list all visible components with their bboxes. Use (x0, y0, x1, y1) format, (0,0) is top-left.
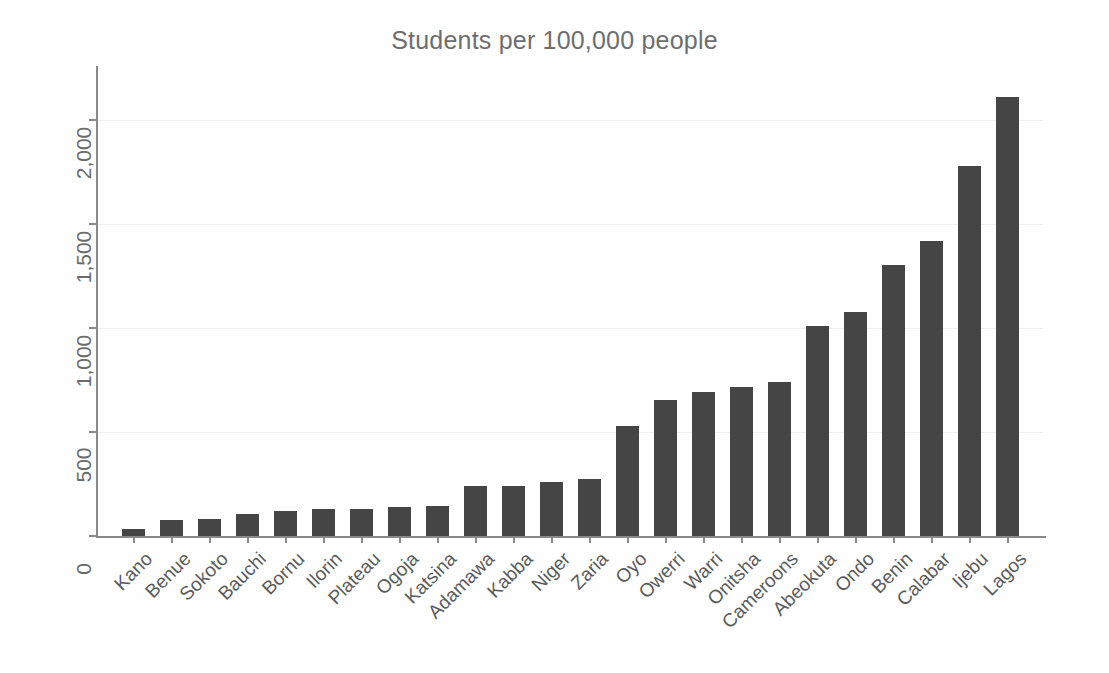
bar (464, 486, 487, 536)
x-tick-mark (323, 536, 325, 543)
y-axis-line (96, 66, 98, 538)
bar (578, 479, 601, 536)
x-tick-mark (171, 536, 173, 543)
bar (692, 392, 715, 536)
x-tick-mark (931, 536, 933, 543)
gridline (98, 120, 1043, 121)
x-tick-mark (703, 536, 705, 543)
bar (198, 519, 221, 536)
bar (920, 241, 943, 536)
bar (768, 382, 791, 536)
y-tick-label: 2,000 (72, 120, 96, 186)
x-tick-mark (209, 536, 211, 543)
x-tick-label: Ondo (831, 548, 879, 596)
bar (882, 265, 905, 536)
x-tick-mark (627, 536, 629, 543)
x-tick-mark (285, 536, 287, 543)
bar (160, 520, 183, 536)
x-tick-mark (893, 536, 895, 543)
bar (274, 511, 297, 536)
bar (236, 514, 259, 536)
y-tick-label: 500 (72, 432, 96, 498)
y-tick-label: 0 (72, 536, 96, 602)
x-tick-mark (589, 536, 591, 543)
x-tick-mark (133, 536, 135, 543)
chart-title: Students per 100,000 people (0, 26, 1109, 55)
bar (502, 486, 525, 536)
bar (806, 326, 829, 536)
bar (844, 312, 867, 536)
x-tick-mark (361, 536, 363, 543)
x-tick-mark (1007, 536, 1009, 543)
bar (958, 166, 981, 536)
x-tick-mark (437, 536, 439, 543)
bar (996, 97, 1019, 536)
x-tick-label: Niger (527, 548, 575, 596)
bar (122, 529, 145, 536)
x-tick-mark (399, 536, 401, 543)
gridline (98, 224, 1043, 225)
x-tick-mark (551, 536, 553, 543)
x-tick-mark (665, 536, 667, 543)
bar (426, 506, 449, 536)
x-tick-mark (855, 536, 857, 543)
y-tick-label: 1,500 (72, 224, 96, 290)
bar (654, 400, 677, 536)
x-tick-mark (247, 536, 249, 543)
x-tick-mark (513, 536, 515, 543)
x-tick-label: Lagos (979, 548, 1031, 600)
bar (540, 482, 563, 536)
x-tick-mark (475, 536, 477, 543)
bar (616, 426, 639, 536)
x-axis-line (96, 536, 1046, 538)
y-tick-label: 1,000 (72, 328, 96, 394)
bar (730, 387, 753, 536)
x-tick-label: Zaria (567, 548, 613, 594)
x-tick-mark (741, 536, 743, 543)
chart-figure: Students per 100,000 people 05001,0001,5… (0, 0, 1109, 673)
plot-area: 05001,0001,5002,000 KanoBenueSokotoBauch… (96, 66, 1046, 538)
x-tick-label: Bornu (258, 548, 309, 599)
bar (312, 509, 335, 536)
x-tick-mark (779, 536, 781, 543)
x-tick-mark (969, 536, 971, 543)
bar (350, 509, 373, 536)
x-tick-mark (817, 536, 819, 543)
bar (388, 507, 411, 536)
